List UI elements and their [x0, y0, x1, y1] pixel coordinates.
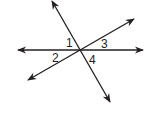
angle-label-2: 2	[52, 51, 59, 65]
steep-line	[52, 1, 110, 102]
angle-label-4: 4	[89, 53, 96, 67]
angle-diagram: 1 3 2 4	[0, 0, 152, 118]
angle-label-3: 3	[101, 37, 108, 51]
angle-label-1: 1	[66, 36, 73, 50]
